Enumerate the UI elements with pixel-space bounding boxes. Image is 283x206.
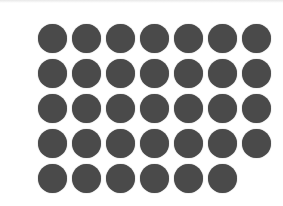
dot bbox=[106, 129, 135, 158]
dot bbox=[242, 94, 271, 123]
dot bbox=[38, 24, 67, 53]
dot bbox=[140, 59, 169, 88]
dot bbox=[242, 24, 271, 53]
dot bbox=[174, 59, 203, 88]
dot bbox=[72, 94, 101, 123]
dot bbox=[174, 94, 203, 123]
dot bbox=[106, 59, 135, 88]
dot bbox=[72, 59, 101, 88]
dot bbox=[174, 24, 203, 53]
dot bbox=[140, 94, 169, 123]
dot bbox=[72, 129, 101, 158]
dot bbox=[174, 129, 203, 158]
dot bbox=[208, 24, 237, 53]
dot bbox=[242, 59, 271, 88]
dot bbox=[106, 164, 135, 193]
dot bbox=[208, 59, 237, 88]
top-edge-line bbox=[0, 0, 283, 3]
dot bbox=[208, 129, 237, 158]
dot bbox=[208, 94, 237, 123]
dot bbox=[106, 94, 135, 123]
dot bbox=[38, 59, 67, 88]
dot bbox=[140, 24, 169, 53]
dot bbox=[174, 164, 203, 193]
dot bbox=[38, 129, 67, 158]
dot bbox=[140, 164, 169, 193]
dot bbox=[140, 129, 169, 158]
dot bbox=[38, 94, 67, 123]
dot bbox=[72, 164, 101, 193]
dot bbox=[242, 129, 271, 158]
dot bbox=[208, 164, 237, 193]
dot bbox=[38, 164, 67, 193]
dot bbox=[72, 24, 101, 53]
dot bbox=[106, 24, 135, 53]
